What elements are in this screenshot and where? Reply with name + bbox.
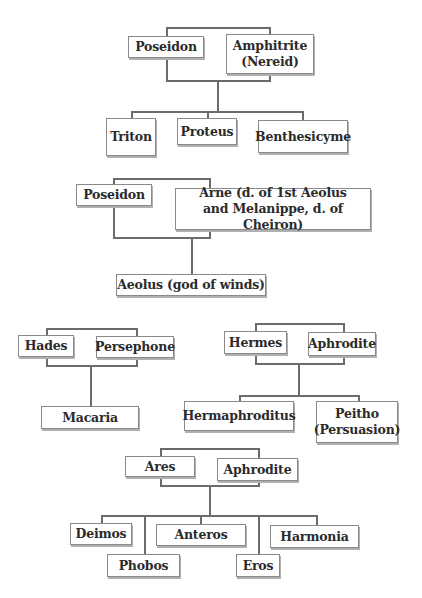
marriage-bracket-top xyxy=(166,27,271,29)
person-box-triton: Triton xyxy=(106,118,156,156)
person-box-hermaphroditus: Hermaphroditus xyxy=(184,401,294,431)
child-drop xyxy=(258,515,260,555)
marriage-bracket-top xyxy=(113,178,211,180)
person-box-eros: Eros xyxy=(236,554,280,577)
descent-line xyxy=(209,486,211,517)
person-box-benthesicyme: Benthesicyme xyxy=(258,120,348,153)
marriage-bracket-top xyxy=(160,448,260,450)
marriage-bracket-bottom xyxy=(113,237,211,239)
person-box-phobos: Phobos xyxy=(107,554,180,577)
person-box-macaria: Macaria xyxy=(41,406,139,429)
person-box-deimos: Deimos xyxy=(70,523,132,545)
marriage-bracket-bottom xyxy=(255,363,345,365)
child-drop xyxy=(144,515,146,555)
person-box-amphitrite: Amphitrite (Nereid) xyxy=(226,34,314,74)
marriage-bracket-bottom xyxy=(46,365,138,367)
person-box-poseidon: Poseidon xyxy=(76,184,152,206)
marriage-bracket-top xyxy=(46,328,138,330)
person-box-peitho: Peitho (Persuasion) xyxy=(316,401,398,443)
person-box-anteros: Anteros xyxy=(156,524,246,546)
person-box-poseidon: Poseidon xyxy=(128,36,204,58)
person-box-aeolus: Aeolus (god of winds) xyxy=(116,274,266,296)
person-box-aphrodite: Aphrodite xyxy=(308,332,376,356)
person-box-hermes: Hermes xyxy=(224,331,287,354)
descent-line xyxy=(298,364,300,397)
person-box-harmonia: Harmonia xyxy=(270,525,359,548)
descent-line xyxy=(90,366,92,407)
person-box-hades: Hades xyxy=(18,335,74,357)
marriage-bracket-top xyxy=(255,323,345,325)
descent-line xyxy=(217,81,219,113)
person-box-proteus: Proteus xyxy=(177,118,237,145)
person-box-persephone: Persephone xyxy=(96,336,174,358)
children-bar xyxy=(239,395,360,397)
person-box-aphrodite: Aphrodite xyxy=(217,458,298,481)
children-bar xyxy=(131,111,304,113)
person-box-ares: Ares xyxy=(125,456,195,477)
children-bar xyxy=(101,515,318,517)
person-box-arne: Arne (d. of 1st Aeolus and Melanippe, d.… xyxy=(175,188,371,230)
descent-line xyxy=(191,238,193,275)
